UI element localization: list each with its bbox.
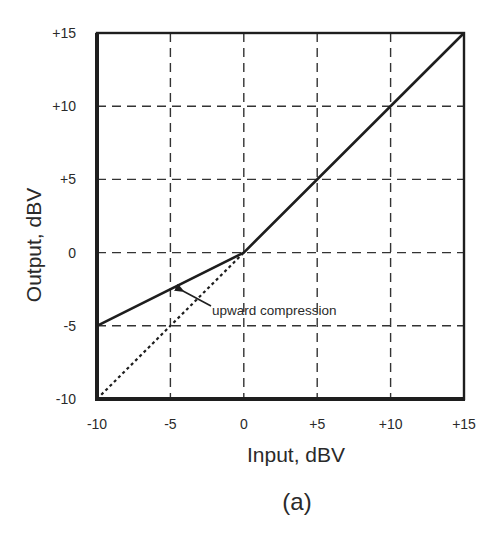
y-tick-label: +10 xyxy=(52,98,76,114)
y-tick-label: -5 xyxy=(64,318,77,334)
chart: -10-50+5+10+15 -10-50+5+10+15 upward com… xyxy=(0,0,503,551)
x-tick-label: -5 xyxy=(164,416,177,432)
annotations: upward compression xyxy=(183,291,337,318)
x-tick-label: +15 xyxy=(452,416,476,432)
y-tick-label: -10 xyxy=(56,391,76,407)
annotation-arrow xyxy=(183,291,211,306)
x-tick-labels: -10-50+5+10+15 xyxy=(87,416,476,432)
series-lines xyxy=(97,33,464,399)
x-tick-label: +10 xyxy=(379,416,403,432)
y-tick-labels: -10-50+5+10+15 xyxy=(52,25,76,407)
figure-caption: (a) xyxy=(282,488,311,515)
x-axis-title: Input, dBV xyxy=(247,443,345,466)
y-axis-title: Output, dBV xyxy=(22,188,45,302)
x-tick-label: -10 xyxy=(87,416,107,432)
x-tick-label: +5 xyxy=(309,416,325,432)
x-tick-label: 0 xyxy=(240,416,248,432)
y-tick-label: +15 xyxy=(52,25,76,41)
y-tick-label: 0 xyxy=(68,245,76,261)
y-tick-label: +5 xyxy=(60,171,76,187)
annotation-label: upward compression xyxy=(212,303,337,318)
